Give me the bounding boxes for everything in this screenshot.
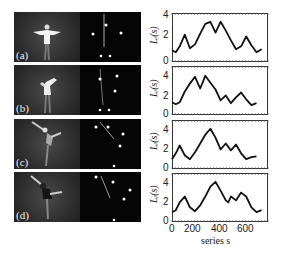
video-frame-c: (c)	[14, 119, 80, 169]
y-tick: 2	[163, 143, 169, 154]
y-tick: 2	[163, 196, 169, 207]
series-line	[172, 76, 257, 105]
y-axis-label: Lᵢ(s)	[148, 185, 159, 203]
y-tick: 0	[163, 55, 169, 66]
panel-c: (c)	[14, 119, 141, 169]
y-tick: 0	[163, 215, 169, 226]
series-line	[172, 22, 262, 52]
video-frame-a: (a)	[14, 12, 80, 62]
y-axis-label: Lᵢ(s)	[148, 26, 159, 44]
line-plot-b	[172, 66, 268, 115]
x-tick: 400	[211, 223, 228, 234]
marker-frame-b	[80, 65, 141, 115]
marker-frame-a	[80, 12, 141, 62]
y-tick: 0	[163, 108, 169, 119]
y-tick: 2	[163, 29, 169, 40]
y-tick: 4	[163, 9, 169, 20]
x-tick: 600	[237, 223, 254, 234]
panel-label: (d)	[16, 209, 29, 221]
x-tick: 0	[169, 223, 175, 234]
y-axis-label: Lᵢ(s)	[148, 79, 159, 97]
panel-a: (a)	[14, 12, 141, 62]
series-line	[172, 182, 262, 212]
y-tick: 2	[163, 90, 169, 101]
x-tick: 200	[184, 223, 201, 234]
x-axis-label: series s	[201, 235, 230, 246]
panel-label: (a)	[16, 49, 28, 61]
panel-b: (b)	[14, 65, 141, 115]
series-line	[172, 129, 257, 159]
y-tick: 4	[163, 70, 169, 81]
video-frame-d: (d)	[14, 172, 80, 222]
line-plot-c	[172, 120, 268, 169]
panel-label: (c)	[16, 156, 28, 168]
y-tick: 0	[163, 162, 169, 173]
y-axis-label: Lᵢ(s)	[148, 132, 159, 150]
y-tick: 4	[163, 177, 169, 188]
video-frame-b: (b)	[14, 65, 80, 115]
y-tick: 4	[163, 124, 169, 135]
line-plot-d	[172, 173, 268, 222]
panel-d: (d)	[14, 172, 141, 222]
marker-frame-d	[80, 172, 141, 222]
marker-frame-c	[80, 119, 141, 169]
panel-label: (b)	[16, 102, 29, 114]
line-plot-a	[172, 13, 268, 62]
